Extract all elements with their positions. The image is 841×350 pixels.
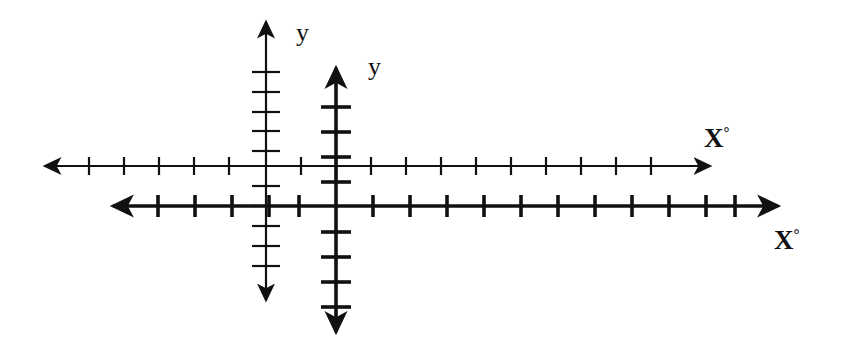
figure-canvas: y y X° X° [0,0,841,350]
y-axis-label-primary: y [296,20,309,46]
y-axis-label-secondary-text: y [368,52,381,81]
axis-diagram-svg [0,0,841,350]
x-axis-label-primary-text: X [704,123,724,153]
x-axis-label-secondary: X° [774,227,800,254]
degree-symbol-icon: ° [794,226,800,242]
x-axis-label-primary: X° [704,125,730,152]
y-axis-label-secondary: y [368,54,381,80]
degree-symbol-icon: ° [724,124,730,140]
x-axis-label-secondary-text: X [774,225,794,255]
y-axis-label-primary-text: y [296,18,309,47]
secondary-axis-system [113,68,778,332]
